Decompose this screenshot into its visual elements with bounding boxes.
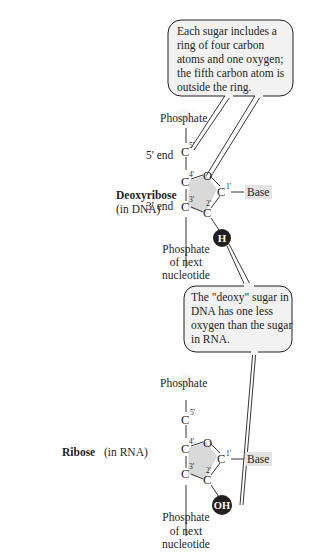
- phosphate-next-line: of next: [170, 525, 203, 537]
- ribose-title: Ribose: [62, 446, 95, 458]
- callout-pointer: [240, 350, 256, 505]
- prime-3: 3': [189, 462, 195, 471]
- atom-o: O: [203, 169, 212, 183]
- five-prime-end-label: 5' end: [146, 149, 174, 161]
- ribose-subtitle: (in RNA): [104, 446, 148, 459]
- callout-line: outside the ring.: [177, 81, 252, 94]
- atom-c2: C: [203, 206, 211, 220]
- phosphate-next-line: Phosphate: [162, 511, 209, 524]
- base-label: Base: [247, 453, 269, 465]
- callout-pointer: [227, 244, 252, 288]
- prime-4: 4': [189, 437, 195, 446]
- prime-3: 3': [189, 195, 195, 204]
- callout-line: atoms and one oxygen;: [177, 53, 283, 66]
- phosphate-top-label: Phosphate: [160, 112, 207, 125]
- callout-line: oxygen than the sugar: [191, 319, 292, 332]
- atom-c2: C: [203, 473, 211, 487]
- sugar-diagram: Each sugar includes a ring of four carbo…: [0, 0, 332, 560]
- atom-c1: C: [217, 452, 225, 466]
- atom-c1: C: [217, 185, 225, 199]
- deoxyribose-structure: Deoxyribose (in DNA) Phosphate 5' end 3'…: [116, 103, 272, 281]
- three-prime-end-label: 3' end: [146, 200, 174, 212]
- callout-line: the fifth carbon atom is: [177, 67, 285, 79]
- callout-line: ring of four carbon: [177, 39, 264, 52]
- prime-2: 2': [206, 466, 212, 475]
- atom-o: O: [203, 436, 212, 450]
- callout-line: DNA has one less: [191, 305, 274, 317]
- phosphate-top-label: Phosphate: [160, 377, 207, 390]
- callout-line: The "deoxy" sugar in: [191, 291, 289, 304]
- hydrogen-label: H: [218, 232, 227, 244]
- prime-1: 1': [226, 182, 232, 191]
- phosphate-next-line: of next: [170, 256, 203, 268]
- prime-2: 2': [206, 199, 212, 208]
- base-label: Base: [247, 186, 269, 198]
- callout-pointer: [206, 94, 262, 178]
- atom-c5: C: [181, 413, 189, 427]
- callout-line: in RNA.: [191, 333, 230, 345]
- ribose-structure: Ribose (in RNA) Phosphate C 5' C 4' O C …: [62, 368, 272, 550]
- prime-1: 1': [226, 449, 232, 458]
- phosphate-next-line: Phosphate: [162, 243, 209, 256]
- hydroxyl-label: OH: [214, 500, 230, 511]
- prime-5: 5': [189, 141, 195, 150]
- prime-5: 5': [190, 408, 196, 417]
- phosphate-next-line: nucleotide: [162, 538, 210, 550]
- prime-4: 4': [189, 170, 195, 179]
- phosphate-next-line: nucleotide: [162, 269, 210, 281]
- callout-line: Each sugar includes a: [177, 25, 277, 38]
